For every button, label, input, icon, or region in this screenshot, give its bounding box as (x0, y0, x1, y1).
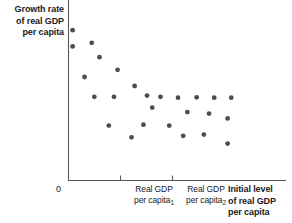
scatter-point (70, 44, 75, 49)
scatter-point (176, 95, 181, 100)
scatter-point (212, 95, 217, 100)
scatter-point (82, 75, 87, 80)
x-axis-title: Initial level of real GDP per capita (228, 184, 290, 219)
origin-tick-label: 0 (56, 184, 61, 195)
scatter-point (70, 28, 75, 33)
scatter-point (141, 122, 146, 127)
x-axis-title-line-1: Initial level (228, 184, 290, 196)
y-axis-title: Growth rate of real GDP per capita (2, 4, 64, 39)
scatter-point (89, 40, 94, 45)
x-axis-title-line-3: per capita (228, 207, 290, 219)
x-tick-label-2-subscript: 2 (222, 199, 226, 206)
scatter-point (167, 123, 172, 128)
scatter-point (106, 123, 111, 128)
scatter-point (185, 110, 190, 115)
scatter-point (194, 95, 199, 100)
scatter-point (150, 105, 155, 110)
scatter-point (97, 55, 102, 60)
x-axis-tick-marks (121, 176, 173, 181)
scatter-chart-figure: Growth rate of real GDP per capita 0 Rea… (0, 0, 292, 223)
y-axis-title-line-3: per capita (2, 27, 64, 39)
scatter-point (145, 93, 150, 98)
x-tick-label-2-text: per capita (186, 195, 222, 205)
scatter-point (92, 94, 97, 99)
scatter-point (229, 95, 234, 100)
scatter-point (225, 141, 230, 146)
y-axis-title-line-2: of real GDP (2, 16, 64, 28)
scatter-point (115, 67, 120, 72)
scatter-points-group (70, 28, 233, 146)
scatter-point (225, 116, 230, 121)
scatter-point (112, 94, 117, 99)
y-axis-title-line-1: Growth rate (2, 4, 64, 16)
scatter-point (181, 133, 186, 138)
scatter-point (207, 111, 212, 116)
x-tick-label-1-text: per capita (134, 195, 170, 205)
scatter-point (132, 84, 137, 89)
scatter-point (201, 132, 206, 137)
scatter-point (129, 135, 134, 140)
x-axis-title-line-2: of real GDP (228, 196, 290, 208)
scatter-point (158, 94, 163, 99)
